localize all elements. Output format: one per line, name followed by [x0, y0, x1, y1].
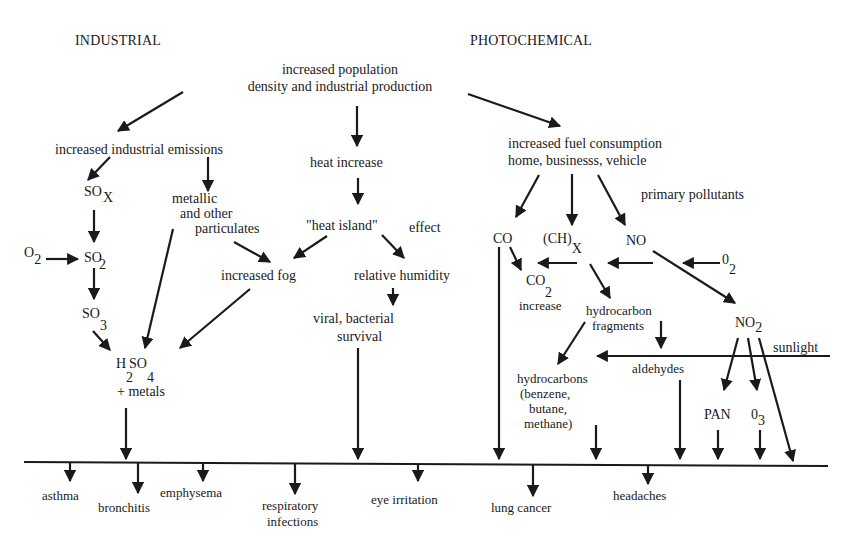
arrow-fog-to-h2so4: [180, 289, 250, 348]
chx-node: (CH)X: [543, 231, 582, 256]
heat-island-node: "heat island": [306, 218, 378, 233]
effect-emphysema: emphysema: [160, 485, 222, 500]
industrial-emissions-node: increased industrial emissions: [55, 142, 223, 157]
fuel-node-line2: home, businesss, vehicle: [508, 153, 646, 168]
effect-eye-irritation: eye irritation: [371, 492, 438, 507]
metallic-node-line3: particulates: [195, 221, 260, 236]
effect-headaches: headaches: [613, 488, 666, 503]
effect-respiratory-line2: infections: [267, 514, 318, 529]
diagram-svg: INDUSTRIAL PHOTOCHEMICAL increased popul…: [0, 0, 858, 546]
no2-node: NO2: [735, 315, 762, 335]
effect-bronchitis: bronchitis: [98, 500, 150, 515]
arrow-island-to-fog: [294, 236, 327, 258]
so3-node: SO3: [82, 306, 107, 333]
h2so4-subscripts: 24: [126, 370, 154, 385]
hc-fragments-line1: hydrocarbon: [586, 303, 652, 318]
hc-fragments-line2: fragments: [592, 318, 644, 333]
effect-asthma: asthma: [42, 488, 79, 503]
arrow-no2-to-pan: [724, 338, 738, 390]
arrow-root-to-fuel: [468, 94, 560, 126]
fuel-node-line1: increased fuel consumption: [508, 136, 662, 151]
arrow-fuel-to-no: [598, 175, 625, 225]
heat-island-effect: effect: [409, 220, 441, 235]
co-node: CO: [493, 231, 512, 246]
root-node-line2: density and industrial production: [248, 79, 433, 94]
o3-node: 03: [751, 407, 765, 428]
metallic-node-line2: and other: [180, 206, 233, 221]
photochemical-header: PHOTOCHEMICAL: [470, 33, 592, 48]
hydrocarbons-line1: hydrocarbons: [517, 371, 588, 386]
health-effects-baseline: [24, 462, 828, 466]
arrow-so3-to-h2so4: [93, 331, 110, 350]
viral-node-line1: viral, bacterial: [313, 311, 394, 326]
arrow-metallic-to-h2so4: [145, 229, 173, 348]
co2-node: CO: [526, 273, 545, 288]
root-node-line1: increased population: [282, 62, 398, 77]
no-node: NO: [626, 233, 646, 248]
aldehydes-node: aldehydes: [632, 361, 684, 376]
h2so4-metals: + metals: [117, 384, 165, 399]
effect-respiratory-line1: respiratory: [262, 498, 319, 513]
sunlight-label: sunlight: [773, 340, 818, 355]
arrow-metallic-to-fog: [234, 242, 270, 262]
arrow-fuel-to-co: [516, 175, 539, 217]
arrow-chx-to-fragments: [590, 264, 610, 298]
sox-node: SOX: [84, 184, 113, 205]
arrow-fragments-to-hydrocarbons: [558, 322, 585, 364]
industrial-header: INDUSTRIAL: [75, 33, 161, 48]
increased-fog-node: increased fog: [221, 268, 296, 283]
smog-effects-diagram: INDUSTRIAL PHOTOCHEMICAL increased popul…: [0, 0, 858, 546]
arrow-root-to-emissions: [118, 92, 183, 131]
o2-left-node: O2: [24, 245, 41, 267]
primary-pollutants-label: primary pollutants: [641, 187, 744, 202]
arrow-no2-to-o3: [748, 338, 757, 390]
o2-right-node: 02: [722, 252, 736, 277]
pan-node: PAN: [704, 407, 731, 422]
co2-increase-label: increase: [519, 298, 562, 313]
arrow-island-to-humidity: [382, 235, 404, 258]
arrow-co-to-co2: [510, 247, 521, 270]
hydrocarbons-line3: butane,: [529, 401, 567, 416]
viral-node-line2: survival: [337, 329, 382, 344]
h2so4-node: HSO: [116, 356, 147, 371]
effect-lung-cancer: lung cancer: [491, 500, 552, 515]
arrow-emissions-to-sox: [88, 157, 110, 180]
heat-increase-node: heat increase: [310, 155, 383, 170]
metallic-node-line1: metallic: [172, 191, 217, 206]
relative-humidity-node: relative humidity: [354, 268, 450, 283]
hydrocarbons-line2: (benzene,: [520, 386, 570, 401]
hydrocarbons-line4: methane): [524, 416, 572, 431]
